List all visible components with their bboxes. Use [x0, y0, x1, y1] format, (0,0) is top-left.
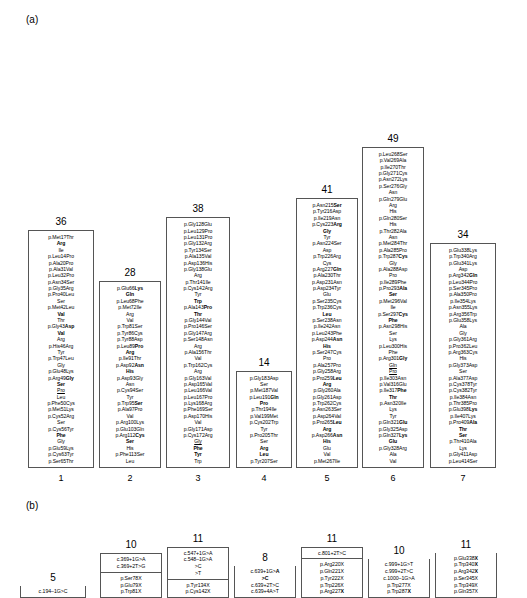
exon-column-6: 49p.Leu268Serp.Val269Alap.Ile270Thrp.Gly… [362, 134, 424, 483]
variant-entry: p.Trp340X [454, 561, 478, 568]
variant-entry: p.Leu414Ser [449, 458, 478, 464]
variant-entry: c.1000–1G>A [383, 575, 414, 582]
variant-count: 8 [262, 553, 268, 563]
variant-entry: p.Gln221X [320, 568, 344, 575]
variant-count: 28 [124, 268, 135, 278]
panel-b-label: (b) [26, 500, 38, 511]
variant-entry: p.Tyr222X [320, 575, 343, 582]
variant-entry: >C [195, 563, 202, 570]
panel-b: 5c.194–1G>C10c.369+1G>Ac.369+2T>Gp.Ser78… [0, 512, 527, 598]
variant-entry: c.801+2T>C [318, 550, 346, 557]
variant-list: p.Met1?ThrArgIlep.Leu14Prop.Ala20Prop.Al… [28, 230, 94, 468]
variant-count: 5 [50, 573, 56, 583]
variant-entry: p.Ser65Thr [49, 458, 74, 464]
variant-entry: p.Arg342X [454, 568, 478, 575]
truncating-column-1: 5c.194–1G>C [20, 573, 86, 598]
variant-entry: c.999+1G>T [385, 561, 413, 568]
nonsense-variant-list: c.194–1G>C [20, 586, 86, 598]
variant-entry: Leu [126, 458, 134, 464]
variant-count: 49 [387, 134, 398, 144]
exon-column-3: 38p.Gly128Glup.Leu129Prop.Leu131Prop.Gly… [166, 204, 230, 483]
variant-list: p.Gly183AspSerp.Met187Valp.Leu191GlnProp… [236, 371, 292, 468]
panel-a-label: (a) [26, 14, 38, 25]
variant-entry: p.Trp81X [121, 588, 142, 595]
variant-entry: p.Glu338X [454, 555, 478, 562]
variant-count: 10 [125, 540, 136, 550]
truncating-column-4: 8c.639+1G>A>Cc.639+2T>Cc.639+4A>T [234, 553, 296, 598]
variant-entry: p.Trp277X [387, 582, 411, 589]
variant-entry: p.Glu79X [120, 582, 141, 589]
exon-index-label: 4 [261, 473, 266, 483]
exon-index-label: 6 [390, 473, 395, 483]
variant-count: 36 [55, 217, 66, 227]
splice-variant-list: c.369+1G>Ac.369+2T>G [100, 553, 162, 573]
truncating-column-3: 11c.547+1G>Ac.548–1G>A>C>Tp.Tyr134Xp.Cys… [167, 534, 229, 598]
variant-count: 38 [192, 204, 203, 214]
variant-entry: c.547+1G>A [184, 550, 213, 557]
panel-a: 36p.Met1?ThrArgIlep.Leu14Prop.Ala20Prop.… [0, 28, 527, 483]
variant-entry: c.999+2T>C [385, 568, 413, 575]
exon-index-label: 5 [324, 473, 329, 483]
variant-list: p.Asn215Serp.Tyr216Aspp.Ile219Asnp.Cys22… [296, 198, 358, 468]
variant-entry: p.Tyr134X [186, 582, 209, 589]
variant-entry: Trp [194, 458, 201, 464]
nonsense-variant-list: p.Tyr134Xp.Cys142X [167, 580, 229, 598]
variant-entry: p.Trp349X [454, 582, 478, 589]
variant-entry: c.639+2T>C [251, 582, 279, 589]
splice-variant-list: c.801+2T>C [301, 547, 363, 560]
exon-column-7: 34p.Glu338Lysp.Trp340Argp.Glu341LysAspp.… [430, 230, 496, 483]
variant-entry: p.Arg220X [320, 561, 344, 568]
nonsense-variant-list: p.Glu338Xp.Trp340Xp.Arg342Xp.Ser345Xp.Tr… [435, 553, 497, 598]
variant-entry: p.Met267Ile [314, 458, 340, 464]
truncating-column-2: 10c.369+1G>Ac.369+2T>Gp.Ser78Xp.Glu79Xp.… [100, 540, 162, 598]
variant-entry: c.369+2T>G [117, 563, 145, 570]
variant-entry: p.Trp287X [387, 588, 411, 595]
exon-column-2: 28p.Glu66LysGlnp.Leu68Phep.Met72IleArgVa… [99, 268, 161, 483]
nonsense-variant-list: c.639+1G>A>Cc.639+2T>Cc.639+4A>T [234, 566, 296, 598]
variant-list: p.Glu66LysGlnp.Leu68Phep.Met72IleArgValp… [99, 281, 161, 468]
exon-column-5: 41p.Asn215Serp.Tyr216Aspp.Ile219Asnp.Cys… [296, 185, 358, 483]
variant-count: 41 [321, 185, 332, 195]
variant-entry: >T [195, 570, 201, 577]
variant-entry: c.369+1G>A [117, 556, 146, 563]
variant-entry: Val [390, 458, 397, 464]
truncating-column-7: 11p.Glu338Xp.Trp340Xp.Arg342Xp.Ser345Xp.… [435, 540, 497, 598]
truncating-column-5: 11c.801+2T>Cp.Arg220Xp.Gln221Xp.Tyr222Xp… [301, 534, 363, 598]
variant-list: p.Glu338Lysp.Trp340Argp.Glu341LysAspp.Ar… [430, 243, 496, 468]
truncating-column-6: 10c.999+1G>Tc.999+2T>Cc.1000–1G>Ap.Trp27… [368, 546, 430, 598]
variant-entry: p.Cys142X [186, 588, 211, 595]
variant-count: 10 [393, 546, 404, 556]
nonsense-variant-list: c.999+1G>Tc.999+2T>Cc.1000–1G>Ap.Trp277X… [368, 559, 430, 598]
variant-entry: >C [262, 575, 269, 582]
variant-count: 11 [461, 540, 471, 550]
exon-index-label: 3 [195, 473, 200, 483]
nonsense-variant-list: p.Ser78Xp.Glu79Xp.Trp81X [100, 573, 162, 598]
variant-entry: p.Ser78X [120, 575, 141, 582]
exon-index-label: 7 [460, 473, 465, 483]
variant-count: 14 [258, 358, 269, 368]
variant-entry: c.548–1G>A [184, 556, 213, 563]
figure-root: (a) 36p.Met1?ThrArgIlep.Leu14Prop.Ala20P… [0, 0, 527, 598]
variant-entry: c.639+4A>T [251, 588, 279, 595]
variant-entry: c.194–1G>C [39, 588, 68, 595]
splice-variant-list: c.547+1G>Ac.548–1G>A>C>T [167, 547, 229, 580]
exon-column-1: 36p.Met1?ThrArgIlep.Leu14Prop.Ala20Prop.… [28, 217, 94, 483]
variant-entry: p.Trp226X [320, 582, 344, 589]
variant-entry: p.Tyr207Ser [250, 458, 277, 464]
exon-column-4: 14p.Gly183AspSerp.Met187Valp.Leu191GlnPr… [236, 358, 292, 483]
variant-list: p.Leu268Serp.Val269Alap.Ile270Thrp.Gly27… [362, 147, 424, 468]
variant-entry: p.Ser345X [454, 575, 478, 582]
variant-entry: c.639+1G>A [251, 568, 280, 575]
variant-count: 11 [327, 534, 337, 544]
variant-count: 11 [193, 534, 203, 544]
variant-entry: p.Arg227X [320, 588, 344, 595]
variant-entry: p.Gln357X [454, 588, 478, 595]
nonsense-variant-list: p.Arg220Xp.Gln221Xp.Tyr222Xp.Trp226Xp.Ar… [301, 559, 363, 598]
variant-count: 34 [457, 230, 468, 240]
exon-index-label: 2 [127, 473, 132, 483]
variant-list: p.Gly128Glup.Leu129Prop.Leu131Prop.Gly13… [166, 217, 230, 468]
exon-index-label: 1 [58, 473, 63, 483]
